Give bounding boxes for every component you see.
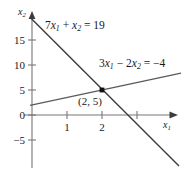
equation-label-line1: 7x1 + x2 = 19 bbox=[45, 20, 105, 32]
y-tick-label-15: 15 bbox=[6, 35, 25, 46]
x-axis-label: x1 bbox=[163, 120, 171, 130]
y-tick-label-neg5: −5 bbox=[4, 135, 25, 146]
y-axis-arrow-icon bbox=[29, 11, 36, 19]
y-tick-label-10: 10 bbox=[6, 60, 25, 71]
x-axis-arrow-icon bbox=[170, 112, 179, 119]
x-tick-label-2: 2 bbox=[92, 122, 112, 133]
x-tick-label-1: 1 bbox=[57, 122, 77, 133]
line-7x1-plus-x2-eq-19 bbox=[31, 18, 179, 166]
y-axis-label: x2 bbox=[18, 7, 26, 17]
intersection-point-marker bbox=[100, 88, 105, 93]
y-tick-label-0: 0 bbox=[6, 110, 25, 121]
y-tick-label-5: 5 bbox=[6, 85, 25, 96]
line-3x1-minus-2x2-eq-neg4 bbox=[30, 73, 181, 105]
equation-label-line2: 3x1 − 2x2 = −4 bbox=[99, 58, 165, 70]
intersection-point-label: (2, 5) bbox=[78, 96, 102, 107]
linear-system-graph-figure: x2 x1 15 10 5 0 −5 1 2 7x1 + x2 = 19 3x1… bbox=[0, 0, 186, 169]
